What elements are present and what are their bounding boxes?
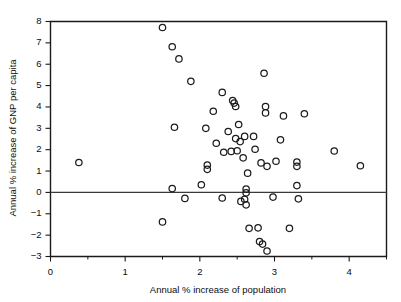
scatter-plot-canvas: 01234 −3−2−1012345678 Annual % increase … — [0, 0, 401, 302]
y-tick-label: −2 — [31, 229, 42, 240]
y-tick-label: 3 — [36, 122, 41, 133]
x-tick-label: 1 — [123, 266, 128, 277]
x-tick-label: 0 — [48, 266, 53, 277]
x-tick-label: 3 — [272, 266, 277, 277]
x-tick-label: 2 — [197, 266, 202, 277]
y-tick-label: −3 — [31, 250, 42, 261]
y-tick-label: 0 — [36, 186, 41, 197]
y-axis-title: Annual % increase of GNP per capita — [7, 59, 18, 217]
y-tick-label: −1 — [31, 207, 42, 218]
x-tick-label: 4 — [347, 266, 352, 277]
x-axis-title: Annual % increase of population — [150, 284, 286, 295]
y-tick-label: 5 — [36, 79, 41, 90]
y-tick-label: 6 — [36, 58, 41, 69]
y-tick-label: 4 — [36, 100, 41, 111]
y-tick-label: 2 — [36, 143, 41, 154]
y-tick-label: 7 — [36, 36, 41, 47]
scatter-chart-figure: 01234 −3−2−1012345678 Annual % increase … — [0, 0, 401, 302]
y-tick-label: 1 — [36, 165, 41, 176]
y-tick-label: 8 — [36, 15, 41, 26]
